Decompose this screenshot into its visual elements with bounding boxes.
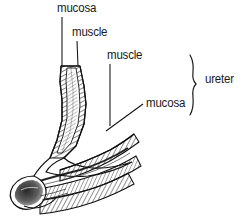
label-muscle-upper: muscle (72, 26, 107, 39)
ureter-brace (190, 55, 196, 115)
label-ureter: ureter (205, 73, 234, 86)
leader-mucosa-lower (106, 104, 143, 131)
anatomy-drawing (0, 0, 244, 224)
anatomical-figure: mucosa muscle muscle mucosa ureter (0, 0, 244, 224)
label-mucosa-top: mucosa (57, 2, 96, 15)
ureter-tube (50, 66, 86, 158)
leader-muscle-upper (77, 41, 78, 66)
label-mucosa-lower: mucosa (146, 97, 185, 110)
label-muscle-lower: muscle (107, 49, 142, 62)
